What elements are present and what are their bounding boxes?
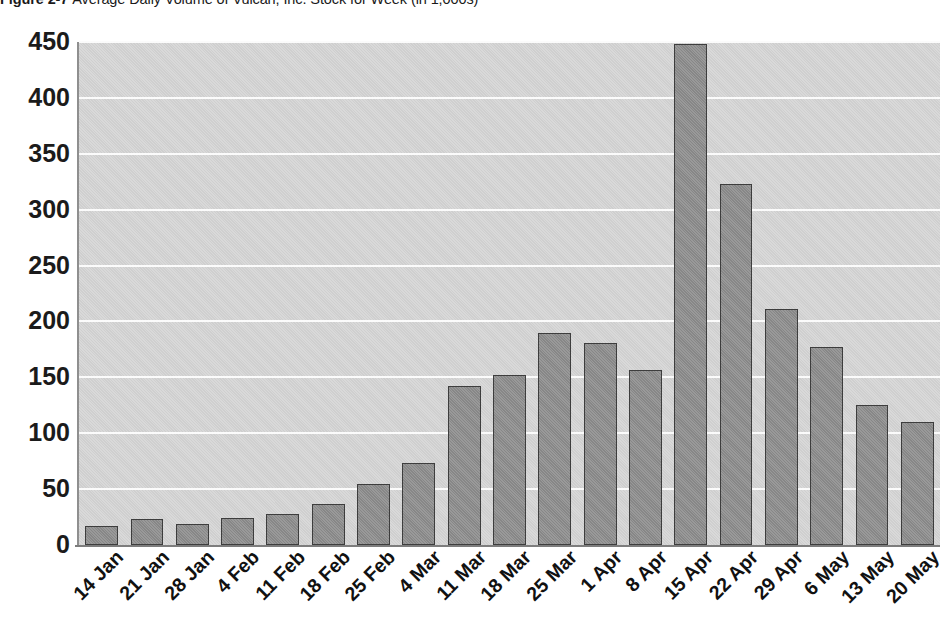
y-axis-tick-label: 450 (4, 29, 70, 54)
y-axis: 450400350300250200150100500 (0, 0, 70, 626)
bar[interactable] (629, 370, 662, 545)
bar[interactable] (674, 44, 707, 545)
bar[interactable] (85, 526, 118, 545)
bar[interactable] (402, 463, 435, 545)
bar[interactable] (176, 524, 209, 545)
y-axis-tick-label: 350 (4, 141, 70, 166)
bar[interactable] (856, 405, 889, 545)
x-axis-tick-label: 18 Mar (478, 547, 535, 604)
bars-layer (79, 42, 940, 545)
x-axis: 14 Jan21 Jan28 Jan4 Feb11 Feb18 Feb25 Fe… (0, 547, 946, 626)
y-axis-tick-label: 150 (4, 364, 70, 389)
bar[interactable] (493, 375, 526, 545)
chart-figure: Figure 2-7 Average Daily Volume of Vulca… (0, 0, 946, 626)
y-axis-tick-label: 50 (4, 476, 70, 501)
y-axis-tick-label: 250 (4, 253, 70, 278)
x-axis-tick-label: 25 Mar (523, 547, 580, 604)
y-axis-tick-label: 200 (4, 308, 70, 333)
plot-area (77, 42, 940, 545)
bar[interactable] (584, 343, 617, 545)
bar[interactable] (221, 518, 254, 545)
x-axis-tick-label: 28 Jan (161, 547, 218, 604)
x-axis-tick-label: 25 Feb (342, 547, 399, 604)
bar[interactable] (720, 184, 753, 545)
bar[interactable] (357, 484, 390, 545)
bar[interactable] (266, 514, 299, 545)
y-axis-tick-label: 400 (4, 85, 70, 110)
y-axis-tick-label: 300 (4, 197, 70, 222)
x-axis-tick-label: 14 Jan (71, 547, 128, 604)
figure-subject-text: Average Daily Volume of Vulcan, Inc. Sto… (72, 0, 478, 7)
x-axis-tick-label: 1 Apr (577, 547, 626, 596)
y-axis-tick-label: 100 (4, 420, 70, 445)
x-axis-tick-label: 15 Apr (660, 547, 716, 603)
bar[interactable] (901, 422, 934, 545)
bar[interactable] (810, 347, 843, 545)
bar[interactable] (765, 309, 798, 545)
x-axis-tick-label: 22 Apr (705, 547, 761, 603)
bar[interactable] (448, 386, 481, 545)
x-axis-tick-label: 29 Apr (751, 547, 807, 603)
chart-title: Figure 2-7 Average Daily Volume of Vulca… (0, 0, 946, 11)
bar[interactable] (312, 504, 345, 545)
x-axis-tick-label: 21 Jan (116, 547, 173, 604)
bar[interactable] (131, 519, 164, 545)
bar[interactable] (538, 333, 571, 545)
